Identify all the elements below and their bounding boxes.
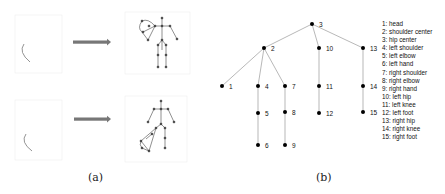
tree-edge xyxy=(312,24,319,48)
joint-label: 7 xyxy=(292,83,296,90)
panel-a-frames xyxy=(15,12,190,162)
joint-label: 2 xyxy=(271,45,275,52)
tree-edge xyxy=(264,48,285,86)
tree-nodes: 321013147111458121569 xyxy=(220,21,378,149)
joint-node xyxy=(317,111,321,115)
legend-item: 2: shoulder center xyxy=(382,28,432,36)
joint-node xyxy=(317,84,321,88)
arc-trajectory-icon xyxy=(24,134,32,151)
arrow-right-icon xyxy=(73,39,111,46)
legend-item: 4: left shoulder xyxy=(382,44,432,52)
joint-label: 3 xyxy=(319,21,323,28)
legend-item: 8: right elbow xyxy=(382,77,432,85)
joint-node xyxy=(220,84,224,88)
joint-node xyxy=(256,143,260,147)
joint-node xyxy=(361,110,365,114)
legend-item: 7: right shoulder xyxy=(382,69,432,77)
tree-edge xyxy=(258,48,264,86)
legend-item: 12: left foot xyxy=(382,109,432,117)
joint-node xyxy=(256,84,260,88)
joint-node xyxy=(283,84,287,88)
joint-node xyxy=(361,46,365,50)
legend-item: 3: hip center xyxy=(382,36,432,44)
joint-label: 13 xyxy=(370,45,378,52)
tree-edge xyxy=(312,24,363,48)
joint-label: 5 xyxy=(265,110,269,117)
joint-node xyxy=(256,111,260,115)
legend-item: 5: left elbow xyxy=(382,52,432,60)
figure-canvas: 321013147111458121569 xyxy=(0,0,445,194)
joint-label: 14 xyxy=(370,83,378,90)
tree-edge xyxy=(222,48,264,86)
joint-label: 11 xyxy=(326,83,333,90)
joint-node xyxy=(310,22,314,26)
joint-node xyxy=(317,46,321,50)
legend-item: 11: left knee xyxy=(382,101,432,109)
arrow-right-icon xyxy=(74,116,111,123)
joint-node xyxy=(262,46,266,50)
joint-label: 4 xyxy=(265,83,269,90)
legend-item: 9: right hand xyxy=(382,85,432,93)
caption-b: (b) xyxy=(316,171,332,184)
joint-label: 15 xyxy=(370,109,378,116)
legend-item: 6: left hand xyxy=(382,60,432,68)
legend-item: 14: right knee xyxy=(382,125,432,133)
joint-label: 1 xyxy=(229,83,233,90)
joint-label: 12 xyxy=(326,110,334,117)
joint-node xyxy=(283,110,287,114)
legend-item: 13: right hip xyxy=(382,117,432,125)
legend-item: 10: left hip xyxy=(382,93,432,101)
legend-item: 15: right foot xyxy=(382,133,432,141)
joint-label: 6 xyxy=(265,142,269,149)
arc-trajectory-icon xyxy=(22,44,30,62)
skeleton-figure-1 xyxy=(140,17,179,68)
joint-label: 10 xyxy=(326,45,334,52)
legend-item: 1: head xyxy=(382,20,432,28)
skeleton-figure-2 xyxy=(140,100,175,152)
joint-label: 9 xyxy=(292,142,296,149)
joint-label: 8 xyxy=(292,109,296,116)
joint-legend: 1: head2: shoulder center3: hip center4:… xyxy=(382,20,432,141)
joint-node xyxy=(361,84,365,88)
joint-node xyxy=(283,143,287,147)
caption-a: (a) xyxy=(88,171,103,184)
